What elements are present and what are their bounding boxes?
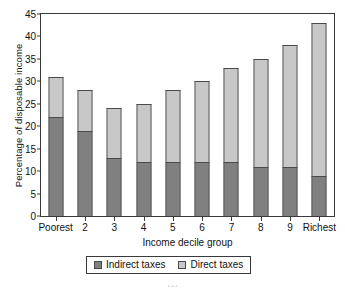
- x-axis-tick-mark: [173, 217, 174, 221]
- x-axis-tick-label: 3: [111, 222, 117, 233]
- bar-group: [305, 14, 334, 216]
- stacked-bar: [195, 81, 210, 216]
- y-axis-tick-label: 25: [0, 98, 36, 109]
- bar-segment-direct-taxes: [77, 90, 92, 130]
- bar-segment-direct-taxes: [195, 81, 210, 162]
- bar-group: [100, 14, 129, 216]
- bar-group: [70, 14, 99, 216]
- stacked-bar: [107, 108, 122, 216]
- x-axis-tick-label: 6: [199, 222, 205, 233]
- bar-segment-indirect-taxes: [283, 167, 298, 216]
- stacked-bar: [136, 104, 151, 216]
- y-axis-tick-label: 5: [0, 188, 36, 199]
- y-axis-tick-label: 35: [0, 53, 36, 64]
- legend-label: Indirect taxes: [106, 259, 165, 270]
- y-axis-tick-label: 45: [0, 9, 36, 20]
- stacked-bar: [224, 68, 239, 216]
- x-axis-tick-label: 4: [141, 222, 147, 233]
- x-axis-tick-mark: [202, 217, 203, 221]
- x-axis-tick-mark: [56, 217, 57, 221]
- bar-group: [129, 14, 158, 216]
- bar-segment-indirect-taxes: [77, 131, 92, 216]
- x-axis-tick-mark: [261, 217, 262, 221]
- stacked-bar: [77, 90, 92, 216]
- bar-segment-direct-taxes: [136, 104, 151, 162]
- x-axis-title: Income decile group: [40, 237, 335, 248]
- x-axis-tick-label: 9: [287, 222, 293, 233]
- bar-segment-indirect-taxes: [165, 162, 180, 216]
- bar-segment-indirect-taxes: [136, 162, 151, 216]
- stacked-bar: [253, 59, 268, 216]
- bar-group: [217, 14, 246, 216]
- bar-segment-direct-taxes: [48, 77, 63, 117]
- bar-segment-indirect-taxes: [195, 162, 210, 216]
- stacked-bar: [283, 45, 298, 216]
- page-caption-fragment: …: [0, 276, 345, 288]
- stacked-bar: [312, 23, 327, 216]
- y-axis-tick-label: 30: [0, 76, 36, 87]
- y-axis-tick-label: 0: [0, 211, 36, 222]
- x-axis-tick-mark: [319, 217, 320, 221]
- bar-segment-indirect-taxes: [107, 158, 122, 216]
- legend-item: Indirect taxes: [94, 259, 165, 270]
- bar-segment-indirect-taxes: [312, 176, 327, 216]
- bar-segment-indirect-taxes: [48, 117, 63, 216]
- x-axis-tick-mark: [290, 217, 291, 221]
- x-axis-tick-label: 5: [170, 222, 176, 233]
- x-axis-tick-mark: [231, 217, 232, 221]
- x-axis-tick-label: Poorest: [38, 222, 72, 233]
- bar-group: [41, 14, 70, 216]
- bars-layer: [41, 14, 334, 216]
- x-axis-tick-label: 2: [82, 222, 88, 233]
- legend-item: Direct taxes: [178, 259, 243, 270]
- y-axis-title: Percentage of disposable income: [13, 16, 24, 216]
- x-axis-tick-label: 7: [229, 222, 235, 233]
- stacked-bar-chart-figure: Percentage of disposable income 05101520…: [0, 0, 345, 288]
- y-axis-tick-label: 20: [0, 121, 36, 132]
- stacked-bar: [165, 90, 180, 216]
- legend-swatch-icon: [94, 261, 102, 269]
- y-axis-tick-label: 15: [0, 143, 36, 154]
- bar-group: [188, 14, 217, 216]
- bar-segment-direct-taxes: [224, 68, 239, 162]
- x-axis-tick-mark: [85, 217, 86, 221]
- legend-label: Direct taxes: [190, 259, 243, 270]
- bar-segment-direct-taxes: [107, 108, 122, 157]
- bar-segment-direct-taxes: [165, 90, 180, 162]
- bar-group: [275, 14, 304, 216]
- bar-group: [158, 14, 187, 216]
- bar-segment-indirect-taxes: [253, 167, 268, 216]
- legend-swatch-icon: [178, 261, 186, 269]
- y-axis-tick-label: 40: [0, 31, 36, 42]
- x-axis-tick-mark: [144, 217, 145, 221]
- chart-legend: Indirect taxesDirect taxes: [86, 256, 251, 274]
- x-axis-tick-label: Richest: [303, 222, 336, 233]
- y-axis-tick-label: 10: [0, 166, 36, 177]
- bar-segment-indirect-taxes: [224, 162, 239, 216]
- x-axis-tick-label: 8: [258, 222, 264, 233]
- bar-group: [246, 14, 275, 216]
- bar-segment-direct-taxes: [283, 45, 298, 166]
- bar-segment-direct-taxes: [253, 59, 268, 167]
- bar-segment-direct-taxes: [312, 23, 327, 176]
- x-axis-tick-mark: [114, 217, 115, 221]
- stacked-bar: [48, 77, 63, 216]
